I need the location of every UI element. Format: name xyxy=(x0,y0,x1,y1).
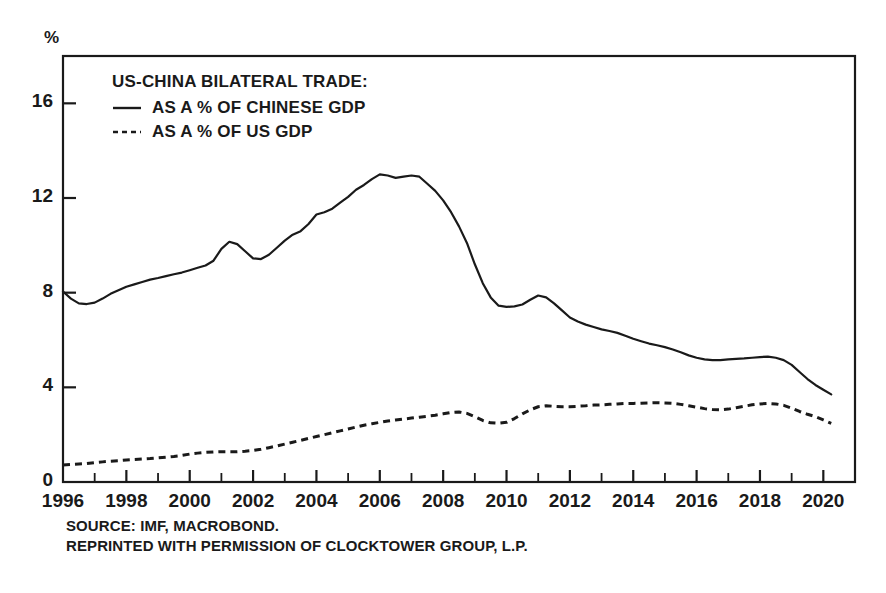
x-tick-label: 2018 xyxy=(728,490,792,512)
legend-label-us-gdp: AS A % OF US GDP xyxy=(152,122,313,142)
legend-label-chinese-gdp: AS A % OF CHINESE GDP xyxy=(152,98,366,118)
x-tick-label: 2008 xyxy=(411,490,475,512)
series-line-as-a-of-us-gdp xyxy=(63,403,831,465)
solid-line-icon xyxy=(112,101,142,115)
x-tick-label: 2014 xyxy=(601,490,665,512)
legend-item-chinese-gdp: AS A % OF CHINESE GDP xyxy=(112,98,368,118)
x-tick-label: 2002 xyxy=(221,490,285,512)
x-tick-label: 2012 xyxy=(538,490,602,512)
chart-figure: % 0481216 199619982000200220042006200820… xyxy=(0,0,886,593)
y-tick-label: 16 xyxy=(13,90,53,112)
x-tick-label: 2020 xyxy=(791,490,855,512)
x-tick-label: 1998 xyxy=(94,490,158,512)
x-tick-label: 2006 xyxy=(348,490,412,512)
x-tick-label: 1996 xyxy=(31,490,95,512)
dashed-line-icon xyxy=(112,125,142,139)
x-tick-label: 2010 xyxy=(475,490,539,512)
chart-legend: US-CHINA BILATERAL TRADE: AS A % OF CHIN… xyxy=(112,72,368,146)
x-tick-label: 2000 xyxy=(158,490,222,512)
x-tick-label: 2016 xyxy=(665,490,729,512)
x-tick-label: 2004 xyxy=(284,490,348,512)
legend-item-us-gdp: AS A % OF US GDP xyxy=(112,122,368,142)
y-tick-label: 12 xyxy=(13,185,53,207)
chart-footnote: SOURCE: IMF, MACROBOND. REPRINTED WITH P… xyxy=(66,516,528,556)
y-tick-label: 0 xyxy=(13,469,53,491)
footnote-line-source: SOURCE: IMF, MACROBOND. xyxy=(66,516,528,536)
y-tick-label: 8 xyxy=(13,280,53,302)
legend-title: US-CHINA BILATERAL TRADE: xyxy=(112,72,368,92)
footnote-line-permission: REPRINTED WITH PERMISSION OF CLOCKTOWER … xyxy=(66,536,528,556)
y-tick-label: 4 xyxy=(13,374,53,396)
series-line-as-a-of-chinese-gdp xyxy=(63,174,831,394)
